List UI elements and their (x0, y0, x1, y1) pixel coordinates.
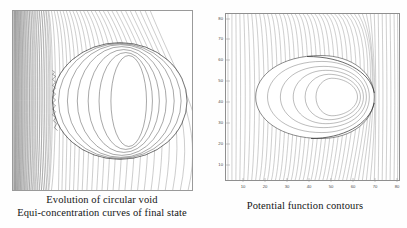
x-tick-label-40: 40 (307, 184, 312, 189)
void-boundary (256, 56, 375, 139)
x-tick-label-30: 30 (285, 184, 290, 189)
figure-root: Evolution of circular void Equi-concentr… (0, 0, 407, 228)
y-tick-label-50: 50 (214, 78, 223, 83)
y-tick-label-20: 20 (214, 141, 223, 146)
y-tick-label-10: 10 (214, 162, 223, 167)
x-tick-label-80: 80 (395, 184, 400, 189)
panel-potential-function-contours: 10 20 30 40 50 60 70 80 10 20 30 40 50 6… (203, 0, 407, 228)
x-tick-label-60: 60 (351, 184, 356, 189)
potential-contour-svg (226, 14, 399, 180)
x-tick-label-10: 10 (241, 184, 246, 189)
y-tick-label-30: 30 (214, 120, 223, 125)
left-caption-line-1: Evolution of circular void (0, 194, 204, 207)
x-tick-label-20: 20 (263, 184, 268, 189)
y-tick-label-80: 80 (214, 16, 223, 21)
x-tick-label-50: 50 (329, 184, 334, 189)
equi-concentration-contour-svg (13, 11, 192, 190)
plot-area-equi-concentration (12, 10, 193, 191)
y-tick-label-70: 70 (214, 36, 223, 41)
x-tick-label-70: 70 (373, 184, 378, 189)
y-tick-label-40: 40 (214, 99, 223, 104)
plot-area-potential-contours: 10 20 30 40 50 60 70 80 10 20 30 40 50 6… (225, 13, 400, 181)
right-caption-line-1: Potential function contours (203, 200, 407, 213)
y-tick-label-60: 60 (214, 57, 223, 62)
panel-evolution-of-circular-void: Evolution of circular void Equi-concentr… (0, 0, 204, 228)
left-caption-line-2: Equi-concentration curves of final state (0, 207, 204, 220)
